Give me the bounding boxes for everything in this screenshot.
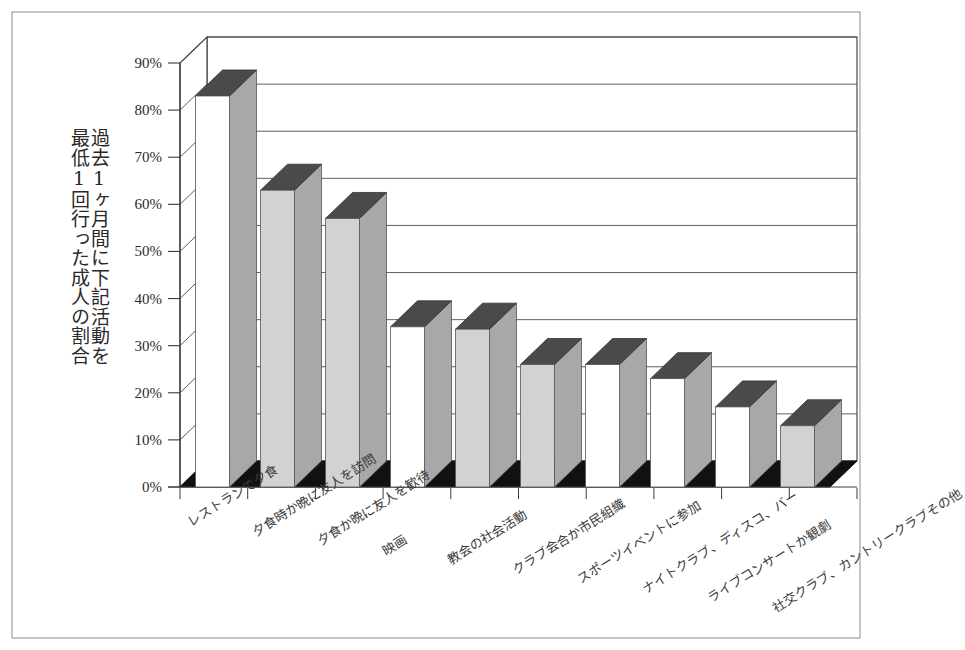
bar-front-face bbox=[326, 218, 360, 487]
y-axis-tick-label: 60% bbox=[135, 196, 163, 212]
bar-column[interactable] bbox=[586, 339, 647, 487]
y-axis-tick-label: 80% bbox=[135, 102, 163, 118]
bar-front-face bbox=[651, 379, 685, 487]
bar-front-face bbox=[521, 365, 555, 487]
y-axis-title-line-1: 過去1ヶ月間に下記活動を bbox=[89, 128, 108, 365]
bar-column[interactable] bbox=[261, 164, 322, 487]
bar-front-face bbox=[261, 190, 295, 487]
y-axis-tick-label: 10% bbox=[135, 432, 163, 448]
bar-side-face bbox=[230, 70, 257, 487]
bar-front-face bbox=[781, 426, 815, 487]
bar-column[interactable] bbox=[521, 339, 582, 487]
y-axis-tick-label: 20% bbox=[135, 385, 163, 401]
bar-front-face bbox=[456, 329, 490, 487]
bar-side-face bbox=[360, 192, 387, 487]
bar-front-face bbox=[196, 96, 230, 487]
bar-column[interactable] bbox=[456, 303, 517, 487]
bar-side-face bbox=[295, 164, 322, 487]
bar-side-face bbox=[490, 303, 517, 487]
y-axis-tick-label: 90% bbox=[135, 55, 163, 71]
bar-front-face bbox=[586, 365, 620, 487]
y-axis-tick-label: 40% bbox=[135, 291, 163, 307]
bar-column[interactable] bbox=[651, 353, 712, 487]
bar-column[interactable] bbox=[196, 70, 257, 487]
y-axis-tick-label: 30% bbox=[135, 338, 163, 354]
bar-column[interactable] bbox=[391, 301, 452, 487]
y-axis-tick-label: 50% bbox=[135, 243, 163, 259]
y-axis-tick-label: 0% bbox=[142, 479, 162, 495]
bar-front-face bbox=[716, 407, 750, 487]
bar-side-face bbox=[425, 301, 452, 487]
y-axis-title-line-2: 最低1回行った成人の割合 bbox=[69, 128, 88, 365]
bar-front-face bbox=[391, 327, 425, 487]
y-axis-tick-label: 70% bbox=[135, 149, 163, 165]
bar-column[interactable] bbox=[326, 192, 387, 487]
y-axis-title: 過去1ヶ月間に下記活動を 最低1回行った成人の割合 bbox=[44, 128, 108, 478]
